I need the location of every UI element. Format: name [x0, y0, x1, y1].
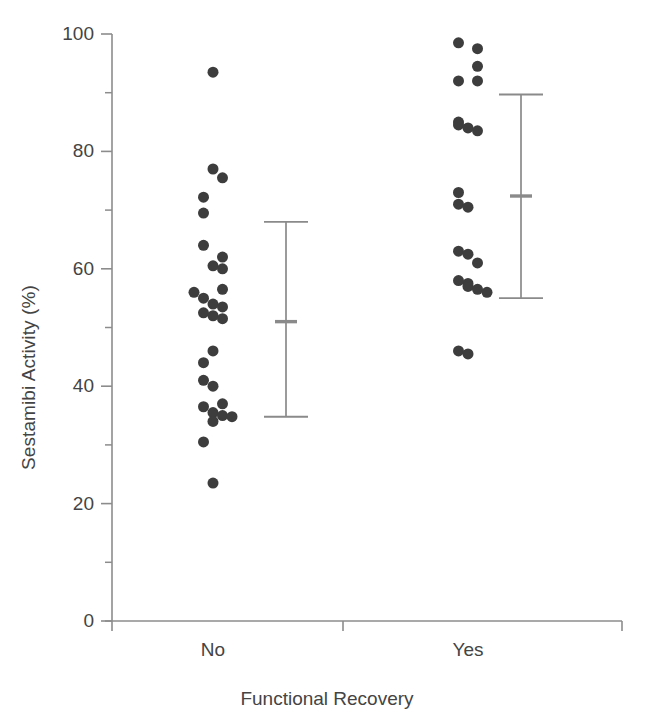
data-point — [217, 398, 228, 409]
y-tick-label: 80 — [73, 140, 94, 162]
data-point — [453, 345, 464, 356]
data-point — [472, 257, 483, 268]
data-point — [198, 208, 209, 219]
data-point — [453, 199, 464, 210]
data-point — [453, 37, 464, 48]
data-point — [198, 240, 209, 251]
data-point — [217, 410, 228, 421]
data-point — [217, 263, 228, 274]
data-point — [198, 375, 209, 386]
data-point — [217, 313, 228, 324]
x-axis-label: Functional Recovery — [0, 688, 654, 710]
data-point — [472, 43, 483, 54]
data-point — [463, 281, 474, 292]
data-point — [472, 125, 483, 136]
data-point — [227, 411, 238, 422]
data-point — [208, 345, 219, 356]
series-yes — [453, 37, 493, 359]
x-tick-label-no: No — [201, 639, 225, 661]
x-tick-label-yes: Yes — [453, 639, 484, 661]
data-point — [208, 260, 219, 271]
scatter-plot-figure: Sestamibi Activity (%) Functional Recove… — [0, 0, 654, 718]
data-point — [453, 75, 464, 86]
data-point — [208, 299, 219, 310]
data-point — [198, 293, 209, 304]
y-tick-label: 0 — [83, 610, 94, 632]
data-point — [463, 122, 474, 133]
data-point — [198, 436, 209, 447]
data-point — [208, 310, 219, 321]
data-point — [482, 287, 493, 298]
data-point — [453, 187, 464, 198]
data-point — [217, 252, 228, 263]
data-point — [472, 61, 483, 72]
series-no — [189, 67, 238, 489]
y-tick-label: 60 — [73, 258, 94, 280]
plot-canvas — [0, 0, 654, 718]
y-tick-label: 20 — [73, 493, 94, 515]
data-point — [208, 478, 219, 489]
data-point — [189, 287, 200, 298]
data-point — [217, 284, 228, 295]
data-point — [463, 202, 474, 213]
data-point — [463, 348, 474, 359]
errorbar-yes — [499, 94, 543, 298]
data-point — [208, 416, 219, 427]
y-axis-label: Sestamibi Activity (%) — [18, 0, 40, 470]
data-point — [463, 249, 474, 260]
data-point — [198, 401, 209, 412]
data-point — [198, 192, 209, 203]
data-point — [208, 381, 219, 392]
data-point — [198, 357, 209, 368]
data-point — [217, 172, 228, 183]
data-point — [217, 301, 228, 312]
data-point — [472, 284, 483, 295]
data-point — [472, 75, 483, 86]
errorbar-no — [264, 222, 308, 417]
data-point — [208, 164, 219, 175]
data-point — [453, 246, 464, 257]
data-point — [208, 67, 219, 78]
y-tick-label: 40 — [73, 375, 94, 397]
data-point — [453, 275, 464, 286]
y-tick-label: 100 — [62, 23, 94, 45]
data-point — [453, 119, 464, 130]
data-point — [198, 307, 209, 318]
